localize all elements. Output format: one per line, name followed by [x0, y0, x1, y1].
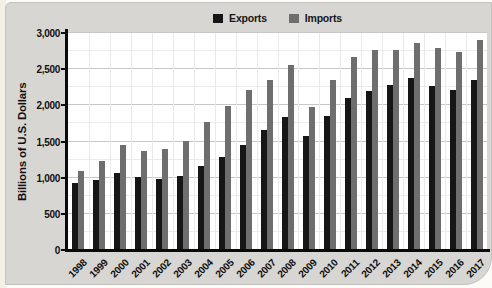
bar-group-2009 [298, 33, 319, 250]
bar-group-2001 [131, 33, 152, 250]
bar-group-2012 [361, 33, 382, 250]
x-tick-label-2001: 2001 [129, 257, 152, 280]
bar-group-2010 [319, 33, 340, 250]
x-tick-label-2005: 2005 [213, 257, 236, 280]
x-tick-label-2007: 2007 [255, 257, 278, 280]
bar-imports-2001 [141, 151, 147, 250]
bar-group-2007 [257, 33, 278, 250]
x-tick-label-2009: 2009 [297, 257, 320, 280]
chart-legend: ExportsImports [68, 11, 487, 25]
x-tick-label-2012: 2012 [359, 257, 382, 280]
bar-imports-2016 [456, 52, 462, 250]
bar-group-2015 [424, 33, 445, 250]
x-tick-label-2013: 2013 [380, 257, 403, 280]
legend-swatch-imports [289, 14, 299, 23]
bar-imports-2000 [120, 145, 126, 250]
bar-group-2017 [466, 33, 487, 250]
bar-imports-2015 [435, 48, 441, 250]
y-tickmark [61, 104, 65, 106]
y-axis-labels: 05001,0001,5002,0002,5003,000 [6, 33, 60, 250]
x-tick-label-1999: 1999 [87, 257, 110, 280]
x-tick-label-2010: 2010 [318, 257, 341, 280]
y-tick-label: 2,000 [6, 100, 60, 111]
y-axis-ticks [61, 33, 65, 250]
bar-group-2014 [403, 33, 424, 250]
legend-label: Imports [305, 12, 342, 24]
page: ExportsImports Billions of U.S. Dollars … [0, 0, 492, 288]
y-tick-label: 500 [6, 208, 60, 219]
bar-group-2008 [278, 33, 299, 250]
bar-imports-2007 [267, 80, 273, 250]
x-tick-label-2017: 2017 [464, 257, 487, 280]
bar-imports-2008 [288, 65, 294, 250]
legend-label: Exports [229, 12, 267, 24]
bar-imports-1998 [78, 171, 84, 250]
legend-item-exports: Exports [213, 12, 267, 24]
x-tick-label-2014: 2014 [401, 257, 424, 280]
bar-imports-2014 [414, 43, 420, 250]
y-tickmark [61, 141, 65, 143]
bar-group-2016 [445, 33, 466, 250]
legend-swatch-exports [213, 14, 223, 23]
bar-group-2004 [194, 33, 215, 250]
y-tick-label: 1,500 [6, 136, 60, 147]
x-tick-label-2003: 2003 [171, 257, 194, 280]
bar-group-2005 [215, 33, 236, 250]
x-tick-label-1998: 1998 [66, 257, 89, 280]
bar-imports-2011 [351, 57, 357, 250]
bar-imports-2013 [393, 50, 399, 250]
bar-group-2003 [173, 33, 194, 250]
plot-area [68, 33, 487, 250]
x-tick-label-2006: 2006 [234, 257, 257, 280]
bar-group-1999 [89, 33, 110, 250]
y-tickmark [61, 68, 65, 70]
bar-imports-2009 [309, 107, 315, 250]
bar-imports-1999 [99, 161, 105, 250]
bar-imports-2012 [372, 50, 378, 250]
y-tick-label: 0 [6, 245, 60, 256]
bar-group-2006 [236, 33, 257, 250]
bar-imports-2010 [330, 80, 336, 250]
x-axis-labels: 1998199920002001200220032004200520062007… [68, 255, 487, 288]
y-tick-label: 2,500 [6, 64, 60, 75]
bar-group-2011 [340, 33, 361, 250]
bar-imports-2004 [204, 122, 210, 250]
y-tickmark [61, 249, 65, 251]
bar-group-2013 [382, 33, 403, 250]
x-tick-label-2008: 2008 [276, 257, 299, 280]
bar-imports-2005 [225, 106, 231, 250]
x-tick-label-2016: 2016 [443, 257, 466, 280]
bar-group-2000 [110, 33, 131, 250]
y-tickmark [61, 177, 65, 179]
x-axis-line [65, 249, 490, 252]
y-tickmark [61, 32, 65, 34]
y-axis-line [65, 29, 68, 252]
bar-imports-2002 [162, 149, 168, 250]
bar-imports-2017 [477, 40, 483, 250]
y-tickmark [61, 213, 65, 215]
legend-item-imports: Imports [289, 12, 342, 24]
bar-imports-2006 [246, 90, 252, 250]
bar-imports-2003 [183, 141, 189, 251]
bar-group-1998 [68, 33, 89, 250]
x-tick-label-2011: 2011 [339, 257, 361, 279]
x-tick-label-2015: 2015 [422, 257, 445, 280]
x-tick-label-2002: 2002 [150, 257, 173, 280]
y-tick-label: 1,000 [6, 172, 60, 183]
chart-card: ExportsImports Billions of U.S. Dollars … [5, 2, 492, 285]
x-tick-label-2000: 2000 [108, 257, 131, 280]
y-tick-label: 3,000 [6, 28, 60, 39]
bar-group-2002 [152, 33, 173, 250]
x-tick-label-2004: 2004 [192, 257, 215, 280]
bars-layer [68, 33, 487, 250]
